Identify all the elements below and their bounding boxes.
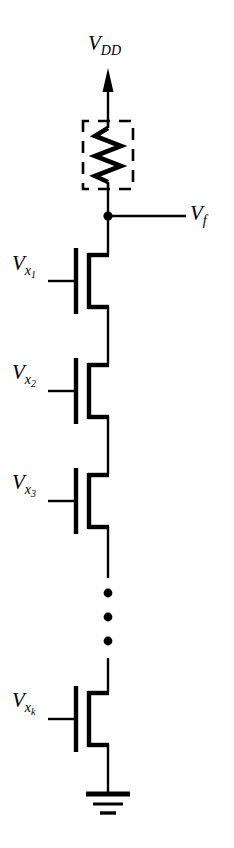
label-vx1-base: V — [12, 251, 25, 275]
label-vx1-sub2: 1 — [31, 269, 36, 280]
ground-icon — [86, 794, 130, 813]
label-vxk-base: V — [12, 688, 25, 712]
transistor-2 — [48, 358, 109, 424]
label-vxk-sub2: k — [31, 706, 35, 717]
label-vdd-sub: DD — [101, 43, 121, 58]
label-vx2-base: V — [12, 360, 25, 384]
label-vxk: Vxk — [12, 690, 36, 711]
label-vx3: Vx3 — [12, 472, 36, 493]
label-vdd: VDD — [88, 33, 121, 54]
output-node — [103, 211, 186, 220]
resistor-zigzag-icon — [95, 128, 121, 182]
ellipsis-dot-2 — [104, 613, 113, 622]
resistor-dashed-box — [83, 121, 133, 189]
label-vx3-base: V — [12, 470, 25, 494]
transistor-k — [48, 686, 109, 752]
ellipsis-dot-3 — [104, 637, 113, 646]
label-vdd-base: V — [88, 31, 101, 55]
vertical-ellipsis — [104, 589, 113, 646]
label-vx3-sub2: 3 — [31, 488, 36, 499]
pullup-resistor — [83, 121, 133, 189]
transistor-3 — [48, 468, 109, 534]
label-vx1: Vx1 — [12, 253, 36, 274]
label-vx2: Vx2 — [12, 362, 36, 383]
transistor-1 — [48, 248, 109, 314]
label-vf-sub: f — [203, 213, 207, 228]
label-vf: Vf — [190, 203, 207, 224]
label-vx2-sub2: 2 — [31, 378, 36, 389]
circuit-diagram-canvas: VDD Vf Vx1 Vx2 Vx3 Vxk — [0, 0, 234, 848]
ellipsis-dot-1 — [104, 589, 113, 598]
supply-arrow-icon — [103, 68, 114, 120]
label-vf-base: V — [190, 201, 203, 225]
circuit-schematic-svg — [0, 0, 234, 848]
